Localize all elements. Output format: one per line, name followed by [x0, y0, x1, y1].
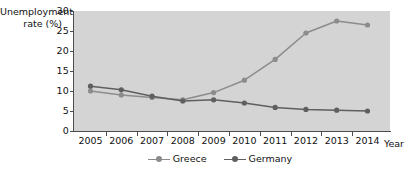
data-point — [303, 107, 308, 112]
data-point — [365, 108, 370, 113]
x-axis-title: Year — [330, 138, 404, 149]
data-point — [88, 88, 93, 93]
data-point — [334, 18, 339, 23]
data-point — [242, 100, 247, 105]
data-point — [180, 98, 185, 103]
data-point — [119, 87, 124, 92]
legend-marker-icon — [224, 155, 246, 164]
data-point — [149, 94, 154, 99]
legend-item-greece[interactable]: Greece — [148, 154, 207, 164]
chart-legend: GreeceGermany — [120, 152, 320, 166]
legend-marker-icon — [148, 155, 170, 164]
legend-label: Germany — [249, 154, 293, 164]
legend-label: Greece — [173, 154, 207, 164]
data-point — [211, 90, 216, 95]
data-point — [273, 105, 278, 110]
series-line — [91, 86, 368, 111]
legend-item-germany[interactable]: Germany — [224, 154, 293, 164]
series-germany — [88, 84, 370, 114]
data-point — [88, 84, 93, 89]
data-point — [242, 78, 247, 83]
data-point — [334, 108, 339, 113]
data-point — [119, 92, 124, 97]
line-chart: Unemployment rate (%) 302520151050 20052… — [0, 0, 408, 174]
data-point — [211, 97, 216, 102]
series-greece — [88, 18, 370, 102]
data-point — [365, 22, 370, 27]
data-point — [273, 57, 278, 62]
series-line — [91, 21, 368, 100]
data-point — [303, 30, 308, 35]
